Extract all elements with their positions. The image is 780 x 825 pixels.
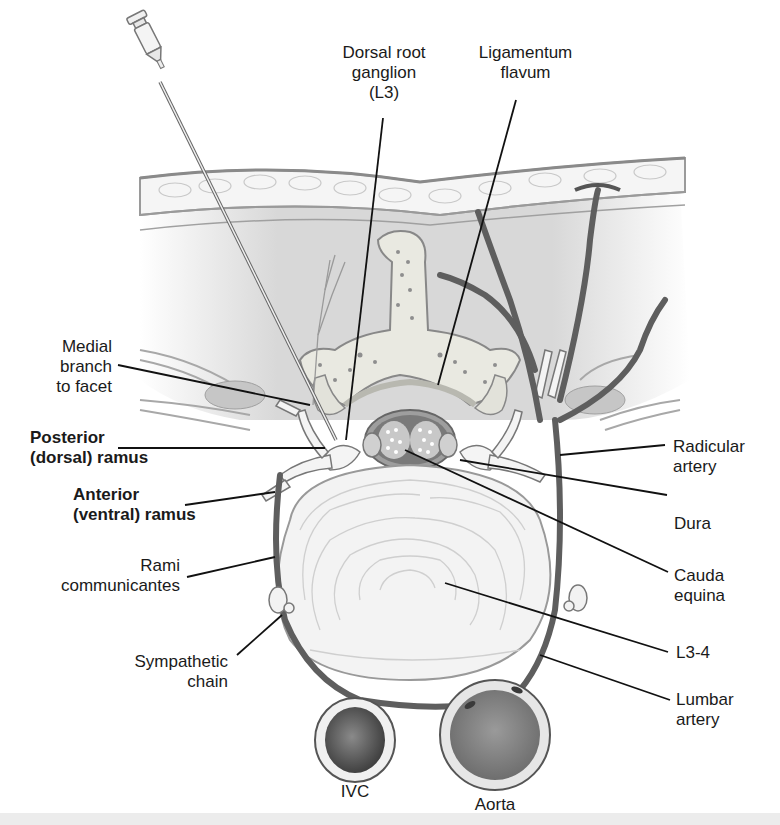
label-ivc: IVC [330, 782, 380, 802]
label-radicular-artery: Radicular artery [673, 437, 745, 477]
label-posterior-ramus: Posterior (dorsal) ramus [30, 428, 148, 468]
label-rami-communicantes: Rami communicantes [60, 556, 180, 596]
leader-radicular-artery [560, 445, 665, 455]
label-dorsal-root-ganglion: Dorsal root ganglion (L3) [328, 43, 440, 103]
ivc-vessel [315, 698, 395, 782]
label-l3-4: L3-4 [676, 643, 710, 663]
label-aorta: Aorta [465, 795, 525, 815]
label-anterior-ramus: Anterior (ventral) ramus [73, 485, 196, 525]
bottom-strip [0, 813, 780, 825]
spine-cross-section-diagram [0, 0, 780, 825]
label-cauda-equina: Cauda equina [674, 566, 725, 606]
leader-rami-communicantes [187, 557, 275, 577]
aorta-vessel [440, 680, 550, 790]
l3-4-disc [278, 465, 551, 680]
label-ligamentum-flavum: Ligamentum flavum [468, 43, 583, 83]
leader-lumbar-artery [540, 655, 670, 700]
leader-sympathetic-chain [237, 615, 282, 655]
label-dura: Dura [674, 514, 711, 534]
label-sympathetic-chain: Sympathetic chain [100, 652, 228, 692]
label-medial-branch: Medial branch to facet [30, 337, 112, 397]
label-lumbar-artery: Lumbar artery [676, 690, 734, 730]
leader-anterior-ramus [185, 492, 275, 505]
